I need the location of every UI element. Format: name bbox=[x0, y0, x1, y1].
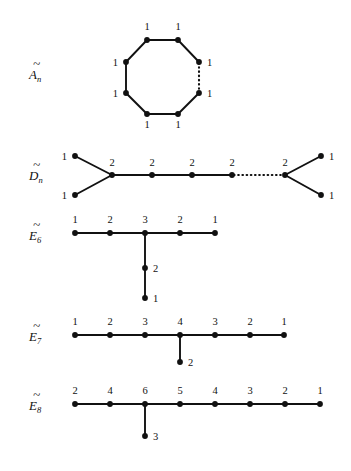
mark-a-6: 1 bbox=[144, 119, 149, 130]
node-e8-chain-3 bbox=[142, 401, 148, 407]
node-e6-chain-4 bbox=[177, 230, 183, 236]
node-e7-chain-2 bbox=[107, 332, 113, 338]
mark-e7-chain-4: 4 bbox=[177, 316, 183, 327]
mark-d-leftfork-lower: 1 bbox=[62, 190, 67, 201]
node-a-7 bbox=[123, 90, 129, 96]
node-e8-chain-4 bbox=[177, 401, 183, 407]
mark-e8-chain-6: 3 bbox=[247, 385, 252, 396]
mark-a-5: 1 bbox=[175, 119, 180, 130]
node-d-rightfork-upper bbox=[318, 153, 324, 159]
node-d-chain-2 bbox=[149, 172, 155, 178]
row-label-e7-sub: 7 bbox=[37, 336, 42, 346]
node-d-chain-5 bbox=[282, 172, 288, 178]
row-label-d-tilde: ~ bbox=[33, 157, 40, 172]
mark-e7-chain-7: 1 bbox=[281, 316, 286, 327]
row-label-e-tilde-6: E6 ~ bbox=[28, 217, 42, 245]
node-d-chain-1 bbox=[109, 172, 115, 178]
node-e8-chain-6 bbox=[247, 401, 253, 407]
mark-a-1: 1 bbox=[144, 21, 149, 32]
node-e7-chain-3 bbox=[142, 332, 148, 338]
node-e8-branch-1 bbox=[142, 433, 148, 439]
mark-d-rightfork-lower: 1 bbox=[329, 190, 334, 201]
mark-d-chain-2: 2 bbox=[149, 157, 154, 168]
mark-e6-chain-2: 2 bbox=[107, 214, 112, 225]
mark-e8-chain-5: 4 bbox=[212, 385, 218, 396]
mark-e8-chain-4: 5 bbox=[177, 385, 182, 396]
node-e7-branch-1 bbox=[177, 359, 183, 365]
mark-e8-chain-1: 2 bbox=[72, 385, 77, 396]
mark-a-7: 1 bbox=[113, 88, 118, 99]
mark-e6-chain-4: 2 bbox=[177, 214, 182, 225]
node-d-leftfork-upper bbox=[72, 153, 78, 159]
mark-e7-branch-1: 2 bbox=[188, 357, 193, 368]
mark-e8-chain-8: 1 bbox=[317, 385, 322, 396]
mark-d-chain-5: 2 bbox=[282, 157, 287, 168]
node-e7-chain-4 bbox=[177, 332, 183, 338]
mark-a-3: 1 bbox=[207, 57, 212, 68]
mark-d-rightfork-upper: 1 bbox=[329, 151, 334, 162]
node-e6-chain-3 bbox=[142, 230, 148, 236]
mark-e6-chain-5: 1 bbox=[212, 214, 217, 225]
node-e6-branch-2 bbox=[142, 295, 148, 301]
node-a-2 bbox=[175, 37, 181, 43]
row-label-e-tilde-8: E8 ~ bbox=[28, 387, 42, 415]
edge-a-bottom-left bbox=[126, 93, 147, 114]
row-a-tilde-n: An ~ 1 1 1 bbox=[28, 21, 212, 130]
row-label-a-tilde: ~ bbox=[33, 56, 40, 71]
node-a-4 bbox=[196, 90, 202, 96]
row-label-e6-tilde: ~ bbox=[33, 217, 40, 232]
node-e8-chain-1 bbox=[72, 401, 78, 407]
row-e-tilde-7: E7 ~ 1 2 3 4 3 2 1 2 bbox=[28, 316, 287, 368]
mark-e6-branch-2: 1 bbox=[153, 293, 158, 304]
node-a-1 bbox=[144, 37, 150, 43]
row-label-e8-sub: 8 bbox=[37, 405, 42, 415]
row-label-e8-tilde: ~ bbox=[33, 387, 40, 402]
node-e7-chain-7 bbox=[281, 332, 287, 338]
node-e7-chain-1 bbox=[72, 332, 78, 338]
node-d-chain-3 bbox=[189, 172, 195, 178]
node-d-chain-4 bbox=[229, 172, 235, 178]
node-a-6 bbox=[144, 111, 150, 117]
mark-d-chain-3: 2 bbox=[189, 157, 194, 168]
edge-d-right-lower bbox=[285, 175, 321, 195]
node-e7-chain-6 bbox=[247, 332, 253, 338]
node-e8-chain-7 bbox=[282, 401, 288, 407]
node-e6-branch-1 bbox=[142, 265, 148, 271]
mark-d-chain-4: 2 bbox=[229, 157, 234, 168]
mark-a-2: 1 bbox=[175, 21, 180, 32]
edge-a-top-right bbox=[178, 40, 199, 62]
row-label-e7-tilde: ~ bbox=[33, 318, 40, 333]
node-d-rightfork-lower bbox=[318, 192, 324, 198]
node-a-5 bbox=[175, 111, 181, 117]
node-a-8 bbox=[123, 59, 129, 65]
node-e6-chain-1 bbox=[72, 230, 78, 236]
row-label-d-tilde-n: Dn ~ bbox=[28, 157, 43, 185]
row-e-tilde-6: E6 ~ 1 2 3 2 1 2 1 bbox=[28, 214, 218, 304]
row-label-a-tilde-n: An ~ bbox=[28, 56, 41, 84]
node-e6-chain-2 bbox=[107, 230, 113, 236]
row-e-tilde-8: E8 ~ 2 4 6 5 4 3 2 1 3 bbox=[28, 385, 323, 442]
node-a-3 bbox=[196, 59, 202, 65]
node-e6-chain-5 bbox=[212, 230, 218, 236]
mark-e7-chain-6: 2 bbox=[247, 316, 252, 327]
mark-e7-chain-2: 2 bbox=[107, 316, 112, 327]
row-label-d-sub: n bbox=[38, 175, 42, 185]
edge-d-left-upper bbox=[75, 156, 112, 175]
edge-a-top-left bbox=[126, 40, 147, 62]
dynkin-diagram-figure: An ~ 1 1 1 bbox=[0, 0, 351, 471]
mark-e7-chain-1: 1 bbox=[72, 316, 77, 327]
row-label-a-sub: n bbox=[37, 74, 41, 84]
edge-d-left-lower bbox=[75, 175, 112, 195]
mark-d-leftfork-upper: 1 bbox=[62, 151, 67, 162]
mark-e8-chain-3: 6 bbox=[142, 385, 147, 396]
row-label-e-tilde-7: E7 ~ bbox=[28, 318, 42, 346]
mark-a-4: 1 bbox=[207, 88, 212, 99]
dynkin-diagram-canvas: An ~ 1 1 1 bbox=[0, 0, 351, 471]
mark-d-chain-1: 2 bbox=[109, 157, 114, 168]
mark-e6-chain-1: 1 bbox=[72, 214, 77, 225]
mark-e6-branch-1: 2 bbox=[153, 263, 158, 274]
edge-d-right-upper bbox=[285, 156, 321, 175]
row-d-tilde-n: Dn ~ 1 1 2 bbox=[28, 151, 334, 201]
mark-e8-chain-2: 4 bbox=[107, 385, 113, 396]
mark-e6-chain-3: 3 bbox=[142, 214, 147, 225]
